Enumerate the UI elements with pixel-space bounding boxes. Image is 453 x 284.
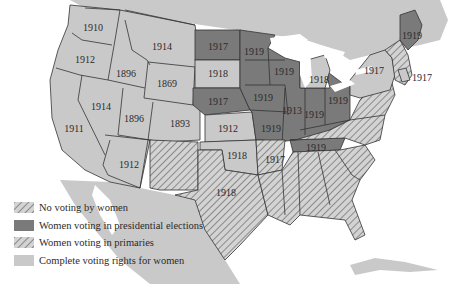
hatch-swatch-icon: [14, 202, 34, 213]
state-year-label: 1919: [244, 46, 264, 57]
state-year-label: 1912: [218, 123, 238, 134]
state-year-label: 1918: [227, 150, 247, 161]
state-year-label: 1918: [208, 68, 228, 79]
state-year-label: 1910: [83, 22, 103, 33]
state-year-label: 1919: [274, 66, 294, 77]
state-year-label: 1917: [265, 154, 285, 165]
state-year-label: 1914: [91, 101, 111, 112]
legend-item-primaries: Women voting in primaries: [14, 234, 203, 252]
state-year-label: 1912: [119, 159, 139, 170]
state-year-label: 1919: [306, 142, 326, 153]
state-year-label: 1919: [402, 30, 422, 41]
state-year-label: 1917: [364, 65, 384, 76]
state-year-label: 1896: [116, 68, 136, 79]
state-year-label: 1913: [282, 105, 302, 116]
cuba-landmass: [350, 258, 438, 275]
state-year-label: 1912: [75, 54, 95, 65]
state-year-label: 1918: [216, 187, 236, 198]
state-year-label: 1911: [64, 123, 84, 134]
light-swatch-icon: [14, 255, 34, 266]
state-year-label: 1896: [124, 113, 144, 124]
state-year-label: 1917: [208, 96, 228, 107]
hatch-swatch-icon: [14, 237, 34, 248]
legend-label: Women voting in primaries: [39, 237, 154, 248]
legend: No voting by women Women voting in presi…: [14, 199, 203, 269]
state-year-label: 1914: [152, 41, 172, 52]
state-year-label: 1893: [170, 118, 190, 129]
legend-label: Women voting in presidential elections: [39, 220, 203, 231]
state-year-label: 1869: [157, 78, 177, 89]
legend-item-complete: Complete voting rights for women: [14, 252, 203, 270]
state-new-mexico: [150, 140, 198, 190]
legend-label: No voting by women: [39, 202, 128, 213]
great-lakes: [270, 34, 308, 48]
state-year-label: 1918: [309, 74, 329, 85]
legend-label: Complete voting rights for women: [39, 255, 184, 266]
state-year-label: 1917: [412, 72, 432, 83]
state-year-label: 1919: [253, 92, 273, 103]
state-year-label: 1919: [304, 109, 324, 120]
legend-item-no-voting: No voting by women: [14, 199, 203, 217]
state-year-label: 1917: [208, 41, 228, 52]
dark-swatch-icon: [14, 220, 34, 231]
state-year-label: 1919: [261, 123, 281, 134]
state-year-label: 1919: [328, 95, 348, 106]
legend-item-presidential: Women voting in presidential elections: [14, 217, 203, 235]
